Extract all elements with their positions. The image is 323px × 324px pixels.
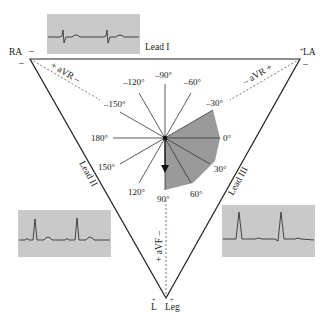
avr-left-dashed-line (30, 59, 100, 100)
angle-label: –60° (183, 77, 202, 87)
angle-label: –90° (154, 70, 173, 80)
electrode-ra-polarity-lower: – (18, 58, 24, 68)
angle-label: 60° (190, 189, 203, 199)
ekg-strip-lead-3 (222, 205, 315, 257)
hexaxial-diagram: –90° –60° –30° 0° 30° 60° 90° 120° 150° … (0, 0, 323, 324)
angle-label: 30° (214, 164, 227, 174)
electrode-la-polarity: – (302, 59, 308, 69)
avr-left-label: + aVR – (49, 60, 82, 85)
ekg-strip-lead-1 (47, 14, 140, 54)
avf-label: + aVF – (154, 231, 164, 262)
angle-label: 120° (128, 187, 146, 197)
angle-label: –150° (103, 99, 126, 109)
lead-3-label: Lead III (226, 165, 250, 197)
lead-1-label: Lead I (145, 42, 170, 52)
electrode-l-label: L (151, 302, 157, 312)
angle-label: –120° (122, 77, 145, 87)
avr-right-label: – aVR + (240, 62, 274, 87)
angle-label: 90° (157, 194, 170, 204)
angle-label: 150° (98, 162, 116, 172)
electrode-ra-polarity: – (28, 46, 34, 56)
electrode-ra-label: RA (9, 47, 22, 57)
angle-label: –30° (205, 98, 224, 108)
angle-label: 180° (91, 133, 109, 143)
lead-2-label: Lead II (77, 159, 99, 188)
electrode-leg-label: Leg (165, 302, 180, 312)
angle-label: 0° (223, 133, 232, 143)
ekg-strip-lead-2 (18, 210, 111, 257)
electrode-la-label: LA (303, 47, 316, 57)
